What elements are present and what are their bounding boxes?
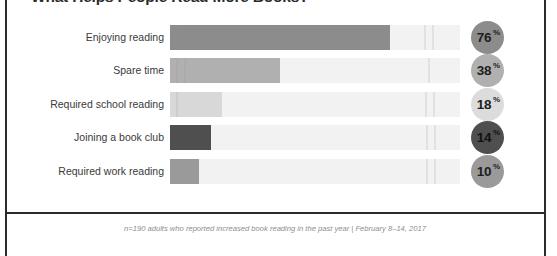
value-badge: 38 % <box>471 54 504 87</box>
bar-fill <box>170 159 199 184</box>
category-label: Joining a book club <box>20 121 164 154</box>
category-label: Required school reading <box>20 88 164 121</box>
bar-row: Enjoying reading 76 % <box>0 21 557 54</box>
scan-tick <box>176 159 178 184</box>
bar-track <box>170 92 460 117</box>
scan-tick <box>176 92 178 117</box>
value-badge: 14 % <box>471 121 504 154</box>
scan-tick <box>426 159 428 184</box>
bar-track <box>170 58 460 83</box>
percent-sign: % <box>493 128 500 137</box>
scan-tick <box>434 125 436 150</box>
badge-value: 14 <box>471 121 504 154</box>
footer-divider <box>5 212 545 214</box>
scan-tick <box>428 58 430 83</box>
bar-fill <box>170 125 211 150</box>
bar-fill <box>170 25 390 50</box>
scan-tick <box>432 25 434 50</box>
percent-sign: % <box>493 95 500 104</box>
scan-tick <box>434 159 436 184</box>
bar-fill <box>170 58 280 83</box>
bar-row: Spare time 38 % <box>0 54 557 87</box>
badge-value: 10 <box>471 155 504 188</box>
percent-sign: % <box>493 61 500 70</box>
bar-track <box>170 25 460 50</box>
chart-card: What Helps People Read More Books? Enjoy… <box>0 0 557 256</box>
scan-tick <box>178 25 180 50</box>
bar-rows: Enjoying reading 76 % Spare time <box>0 21 557 188</box>
badge-value: 76 <box>471 21 504 54</box>
bar-row: Joining a book club 14 % <box>0 121 557 154</box>
chart-footnote: n=190 adults who reported increased book… <box>5 224 545 233</box>
bar-track <box>170 125 460 150</box>
bar-row: Required school reading 18 % <box>0 88 557 121</box>
scan-tick <box>425 92 427 117</box>
bar-track <box>170 159 460 184</box>
value-badge: 10 % <box>471 155 504 188</box>
chart-title: What Helps People Read More Books? <box>31 0 308 6</box>
scan-tick <box>184 58 186 83</box>
category-label: Required work reading <box>20 155 164 188</box>
scan-tick <box>426 125 428 150</box>
scan-tick <box>176 58 178 83</box>
bar-row: Required work reading 10 % <box>0 155 557 188</box>
percent-sign: % <box>493 162 500 171</box>
badge-value: 18 <box>471 88 504 121</box>
scan-tick <box>424 25 426 50</box>
percent-sign: % <box>493 28 500 37</box>
scan-tick <box>433 92 435 117</box>
value-badge: 18 % <box>471 88 504 121</box>
badge-value: 38 <box>471 54 504 87</box>
category-label: Enjoying reading <box>20 21 164 54</box>
value-badge: 76 % <box>471 21 504 54</box>
category-label: Spare time <box>20 54 164 87</box>
